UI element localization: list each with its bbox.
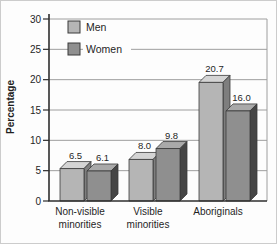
y-tick-label-5: 5: [35, 165, 41, 176]
category-label-aboriginals: Aboriginals: [193, 206, 242, 217]
bar-men-visible-minorities: [129, 152, 160, 201]
value-label-men-3: 20.7: [205, 63, 224, 74]
legend: Men Women: [68, 21, 131, 56]
legend-swatch-women: [68, 43, 80, 55]
y-tick-label-25: 25: [30, 44, 42, 55]
y-axis-title: Percentage: [5, 80, 16, 134]
grouped-bar-chart: Men Women 6.56.18.09.820.716.00510152025…: [1, 1, 277, 244]
category-label-non-visible-minorities: minorities: [59, 219, 102, 230]
category-label-visible-minorities: minorities: [127, 219, 170, 230]
value-label-men-1: 6.5: [69, 150, 82, 161]
y-tick-label-20: 20: [30, 74, 42, 85]
bar-front-face: [129, 159, 153, 201]
y-tick-label-0: 0: [35, 196, 41, 207]
bar-women-visible-minorities: [156, 142, 187, 201]
bar-side-face: [180, 142, 187, 201]
y-tick-label-15: 15: [30, 105, 42, 116]
bar-side-face: [250, 104, 257, 201]
bar-front-face: [156, 149, 180, 201]
category-label-visible-minorities: Visible: [133, 206, 163, 217]
bar-side-face: [111, 164, 118, 201]
legend-label-women: Women: [86, 43, 122, 55]
bar-front-face: [60, 169, 84, 201]
legend-swatch-men: [68, 21, 80, 33]
value-label-women-2: 9.8: [165, 130, 178, 141]
value-label-men-2: 8.0: [138, 140, 151, 151]
bar-front-face: [87, 171, 111, 201]
y-tick-label-30: 30: [30, 14, 42, 25]
value-label-women-1: 6.1: [96, 152, 109, 163]
value-label-women-3: 16.0: [232, 92, 251, 103]
bar-men-aboriginals: [199, 75, 230, 201]
bar-front-face: [226, 111, 250, 201]
bar-chart-figure: Men Women 6.56.18.09.820.716.00510152025…: [0, 0, 277, 244]
bar-women-aboriginals: [226, 104, 257, 201]
y-tick-label-10: 10: [30, 135, 42, 146]
bars: [60, 75, 257, 201]
category-label-non-visible-minorities: Non-visible: [55, 206, 105, 217]
bar-front-face: [199, 82, 223, 201]
bar-women-non-visible-minorities: [87, 164, 118, 201]
bar-men-non-visible-minorities: [60, 162, 91, 201]
legend-label-men: Men: [86, 21, 107, 33]
